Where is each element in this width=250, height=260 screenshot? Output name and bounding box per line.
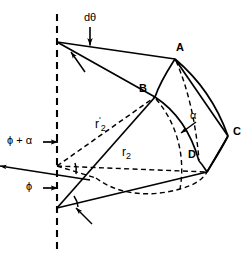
apexbottom-angle-arc [74,196,78,207]
label-phi: ϕ [26,181,32,192]
label-point-d: D [188,149,196,160]
label-alpha: α [190,110,196,121]
alpha-leader-arrow [181,122,196,133]
arc-d-to-lowerright [199,161,207,172]
line-axismid-to-b-dashed [57,97,155,166]
label-r2-sub: 2 [126,151,131,161]
arc-c-to-d-outer [207,136,228,172]
apexbottom-angle-arrow [76,208,92,224]
axismid-angle-arc [75,163,76,174]
label-d-theta: dθ [84,12,96,23]
top-apex-angle-arrow [71,52,85,72]
label-r2-prime: r'2 [95,116,106,133]
diagram-svg [0,0,250,260]
line-axismid-to-lowerright-dashed [57,166,207,172]
line-apexbottom-to-b [57,97,155,208]
label-point-b: B [139,83,147,94]
line-apexbottom-to-lowerright [57,172,207,208]
label-point-c: C [233,126,241,137]
arc-a-to-b [155,59,175,97]
label-point-a: A [176,42,184,53]
dashed-latitude-through-b [156,99,182,189]
label-r2-prime-sub: 2 [101,123,106,133]
figure-canvas: dθ A B C D α ϕ + α ϕ r'2 r2 [0,0,250,260]
label-phi-plus-alpha: ϕ + α [7,135,32,146]
label-r2: r2 [122,146,131,161]
